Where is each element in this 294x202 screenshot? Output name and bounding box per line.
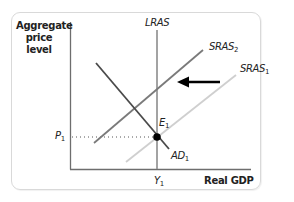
lras-label: LRAS	[145, 17, 169, 28]
shift-left-arrow-icon	[177, 77, 220, 88]
equilibrium-label: E1	[159, 117, 169, 130]
y-axis-label: Aggregate price level	[16, 20, 62, 56]
ad1-label: AD1	[171, 150, 189, 163]
y-axis-label-line-3: level	[16, 44, 62, 56]
y-axis-label-line-2: price	[16, 32, 62, 44]
sras2-curve	[94, 50, 203, 143]
sras2-label: SRAS2	[209, 41, 238, 54]
sras1-label: SRAS1	[240, 63, 269, 76]
equilibrium-point	[153, 133, 161, 141]
x-axis-label: Real GDP	[204, 175, 254, 186]
y-axis-label-line-1: Aggregate	[16, 20, 62, 32]
y1-tick-label: Y1	[154, 175, 164, 188]
p1-tick-label: P1	[55, 130, 65, 143]
